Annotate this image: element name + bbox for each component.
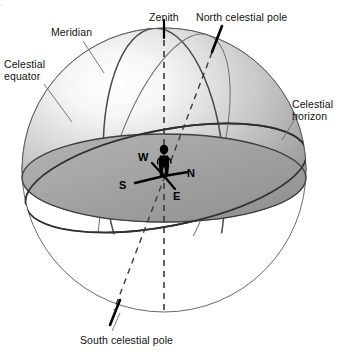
label-north-celestial-pole: North celestial pole [196, 11, 287, 23]
compass-label-north: N [187, 168, 195, 179]
compass-label-south: S [119, 180, 126, 191]
compass-label-east: E [173, 191, 180, 202]
label-south-celestial-pole: South celestial pole [80, 334, 173, 346]
celestial-sphere-drawing [0, 0, 340, 355]
label-celestial-horizon: Celestial horizon [292, 98, 333, 123]
compass-label-west: W [138, 152, 148, 163]
celestial-sphere-figure: • [0, 0, 340, 355]
label-zenith: Zenith [149, 11, 179, 23]
label-meridian: Meridian [51, 26, 92, 38]
label-celestial-equator: Celestial equator [4, 58, 45, 83]
